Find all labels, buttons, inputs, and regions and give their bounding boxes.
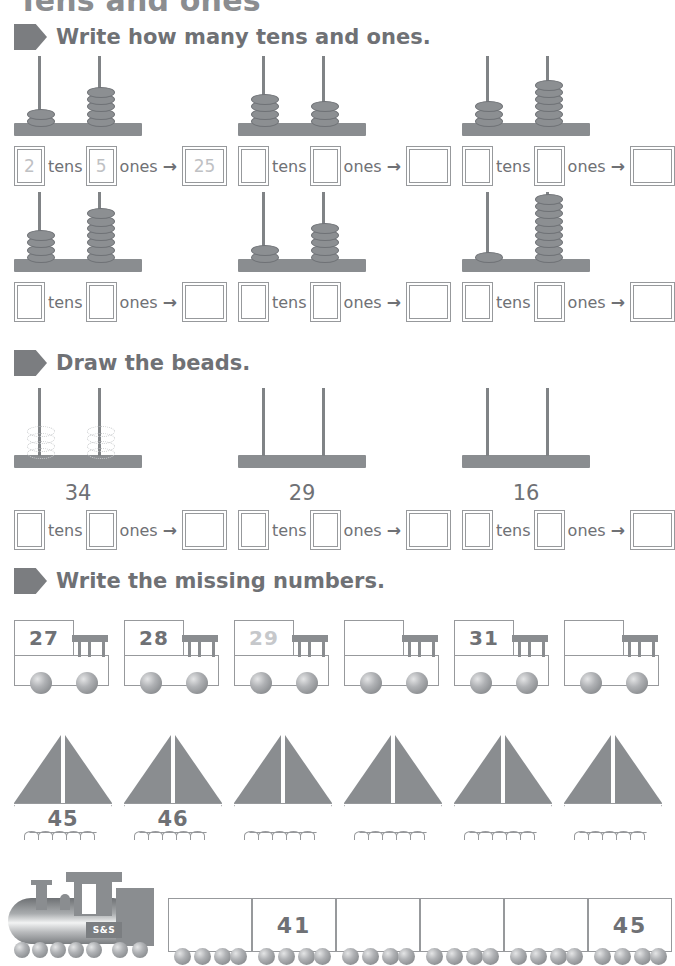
wave-arc xyxy=(176,831,191,840)
abacus-1-ones-box-value: 5 xyxy=(89,149,114,183)
boat-number-field-2[interactable]: 46 xyxy=(124,805,222,833)
truck-rail-post xyxy=(308,641,311,657)
truck-number-field-1[interactable]: 27 xyxy=(14,620,74,656)
truck-2[interactable]: 28 xyxy=(124,620,227,692)
draw-2-total-box[interactable] xyxy=(406,510,451,550)
wave-arc xyxy=(630,831,645,840)
abacus-2-ones-box[interactable] xyxy=(310,146,341,186)
draw-2-ones-box[interactable] xyxy=(310,510,341,550)
abacus-6-answer-row: tensones→ xyxy=(462,280,675,324)
abacus-3-tens-box[interactable] xyxy=(462,146,493,186)
abacus-4-ones-box[interactable] xyxy=(86,282,117,322)
train-car-2[interactable]: 41 xyxy=(252,898,336,966)
abacus-3-tens-box-value xyxy=(465,149,490,183)
truck-wheel xyxy=(140,672,162,694)
draw-3-tens-box[interactable] xyxy=(462,510,493,550)
draw-3-total-box[interactable] xyxy=(630,510,675,550)
train-car-4[interactable] xyxy=(420,898,504,966)
train-car-number-field-1[interactable] xyxy=(168,898,252,952)
abacus-6-ones-box[interactable] xyxy=(534,282,565,322)
train-car-number-field-6[interactable]: 45 xyxy=(588,898,672,952)
truck-number-field-5[interactable]: 31 xyxy=(454,620,514,656)
draw-3-ones-box[interactable] xyxy=(534,510,565,550)
boat-number-field-1[interactable]: 45 xyxy=(14,805,112,833)
abacus-3-ones-box[interactable] xyxy=(534,146,565,186)
section-heading-label: Draw the beads. xyxy=(56,351,250,375)
abacus-rod-tens xyxy=(486,192,489,260)
abacus-bead-tens xyxy=(475,252,503,263)
abacus-1-tens-box[interactable]: 2 xyxy=(14,146,45,186)
sail-left xyxy=(234,735,281,803)
abacus-6-total-box[interactable] xyxy=(630,282,675,322)
boat-number-field-4[interactable] xyxy=(344,805,442,833)
abacus-5-tens-box[interactable] xyxy=(238,282,269,322)
draw-3-answer-row: tensones→ xyxy=(462,508,675,552)
abacus-bead-ones xyxy=(311,223,339,234)
arrow-bullet-icon xyxy=(14,24,47,50)
sailboat-4[interactable] xyxy=(344,735,448,831)
truck-5[interactable]: 31 xyxy=(454,620,557,692)
abacus-3-total-box[interactable] xyxy=(630,146,675,186)
wave-arc xyxy=(258,831,273,840)
sailboat-3[interactable] xyxy=(234,735,338,831)
boat-number-field-3[interactable] xyxy=(234,805,332,833)
truck-6[interactable] xyxy=(564,620,667,692)
wave-arc xyxy=(148,831,163,840)
locomotive-window xyxy=(82,884,96,914)
sailboat-5[interactable] xyxy=(454,735,558,831)
abacus-3-arrow-icon: → xyxy=(611,156,625,176)
train-car-number-field-5[interactable] xyxy=(504,898,588,952)
wave-arc xyxy=(588,831,603,840)
draw-1-tens-box[interactable] xyxy=(14,510,45,550)
truck-rail-post xyxy=(418,641,421,657)
abacus-4-tens-box[interactable] xyxy=(14,282,45,322)
sailboat-2[interactable]: 46 xyxy=(124,735,228,831)
truck-rail-post xyxy=(518,641,521,657)
wave-arc xyxy=(354,831,369,840)
truck-number-value-5: 31 xyxy=(469,626,499,650)
abacus-4-total-box[interactable] xyxy=(182,282,227,322)
train-car-6[interactable]: 45 xyxy=(588,898,672,966)
train-car-wheel xyxy=(594,948,611,965)
train-car-5[interactable] xyxy=(504,898,588,966)
truck-number-field-6[interactable] xyxy=(564,620,624,656)
abacus-1-ones-label: ones xyxy=(120,157,158,176)
train-car-number-field-4[interactable] xyxy=(420,898,504,952)
sailboat-6[interactable] xyxy=(564,735,668,831)
truck-rail-post xyxy=(88,641,91,657)
draw-1-ones-box[interactable] xyxy=(86,510,117,550)
train-car-number-field-2[interactable]: 41 xyxy=(252,898,336,952)
abacus-1-ones-box[interactable]: 5 xyxy=(86,146,117,186)
abacus-2-tens-box[interactable] xyxy=(238,146,269,186)
sail-right xyxy=(175,735,222,803)
abacus-5-ones-box[interactable] xyxy=(310,282,341,322)
truck-number-field-3[interactable]: 29 xyxy=(234,620,294,656)
draw-1-total-box[interactable] xyxy=(182,510,227,550)
abacus-1-arrow-icon: → xyxy=(163,156,177,176)
truck-4[interactable] xyxy=(344,620,447,692)
truck-rail-post xyxy=(432,641,435,657)
truck-number-field-2[interactable]: 28 xyxy=(124,620,184,656)
draw-3-ones-label: ones xyxy=(568,521,606,540)
abacus-4-total-box-value xyxy=(185,285,224,319)
abacus-6-tens-box[interactable] xyxy=(462,282,493,322)
truck-rail-post xyxy=(542,641,545,657)
abacus-1-total-box[interactable]: 25 xyxy=(182,146,227,186)
truck-wheel xyxy=(30,672,52,694)
abacus-5-total-box[interactable] xyxy=(406,282,451,322)
sailboat-1[interactable]: 45 xyxy=(14,735,118,831)
train-car-number-field-3[interactable] xyxy=(336,898,420,952)
train-car-3[interactable] xyxy=(336,898,420,966)
truck-number-field-4[interactable] xyxy=(344,620,404,656)
abacus-4-tens-label: tens xyxy=(48,293,83,312)
waves xyxy=(134,831,204,840)
truck-3[interactable]: 29 xyxy=(234,620,337,692)
wave-arc xyxy=(464,831,479,840)
boat-number-field-5[interactable] xyxy=(454,805,552,833)
abacus-2-total-box[interactable] xyxy=(406,146,451,186)
truck-1[interactable]: 27 xyxy=(14,620,117,692)
draw-2-tens-box[interactable] xyxy=(238,510,269,550)
train-car-1[interactable] xyxy=(168,898,252,966)
sail-left xyxy=(454,735,501,803)
boat-number-field-6[interactable] xyxy=(564,805,662,833)
